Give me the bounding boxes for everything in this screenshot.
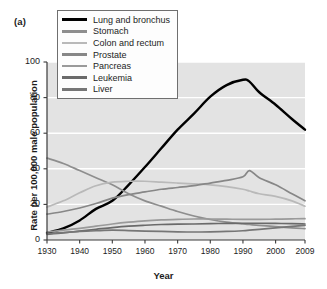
legend-swatch-icon — [62, 88, 87, 91]
y-tick-label: 100 — [10, 56, 40, 66]
legend-item: Liver — [62, 84, 170, 96]
legend-swatch-icon — [62, 30, 87, 33]
legend-item: Stomach — [62, 26, 170, 38]
legend-item-label: Pancreas — [93, 61, 131, 71]
legend-item-label: Lung and bronchus — [93, 15, 170, 25]
y-axis-title: Rate per 100,000 male population — [28, 71, 39, 241]
legend-swatch-icon — [62, 65, 87, 68]
legend-item: Prostate — [62, 49, 170, 61]
legend-item-label: Colon and rectum — [93, 38, 164, 48]
legend-item-label: Liver — [93, 84, 113, 94]
legend-item: Leukemia — [62, 72, 170, 84]
legend-swatch-icon — [62, 18, 87, 21]
legend-item-label: Prostate — [93, 50, 127, 60]
legend-swatch-icon — [62, 76, 87, 79]
x-axis-title: Year — [0, 270, 327, 281]
legend-item: Colon and rectum — [62, 37, 170, 49]
x-tick-label: 2009 — [285, 246, 325, 256]
legend-item-label: Leukemia — [93, 73, 132, 83]
legend-swatch-icon — [62, 42, 87, 45]
legend-item-label: Stomach — [93, 26, 129, 36]
legend-item: Lung and bronchus — [62, 14, 170, 26]
legend-item: Pancreas — [62, 60, 170, 72]
legend-swatch-icon — [62, 53, 87, 56]
chart-legend: Lung and bronchusStomachColon and rectum… — [57, 10, 178, 99]
figure-panel: (a) 020406080100 19301940195019601970198… — [0, 0, 327, 289]
